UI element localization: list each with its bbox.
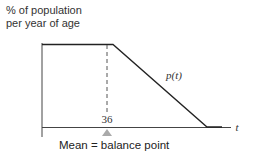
- caption: Mean = balance point: [59, 139, 169, 151]
- x-axis-label: t: [235, 121, 239, 133]
- age-distribution-diagram: 36 p(t) t: [0, 0, 255, 157]
- mean-value-label: 36: [102, 113, 114, 125]
- triangle-up-icon: [102, 129, 112, 136]
- curve-label: p(t): [165, 69, 182, 82]
- curve-p-t: [42, 45, 222, 128]
